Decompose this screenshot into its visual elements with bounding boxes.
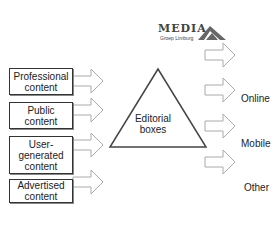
input-box-professional: Professional content — [9, 68, 73, 95]
input-box-advertised: Advertised content — [9, 179, 73, 203]
editorial-triangle — [110, 69, 206, 147]
output-other: Other — [244, 182, 269, 193]
input-box-public: Public content — [9, 102, 73, 129]
logo-icon — [198, 26, 226, 40]
editorial-boxes-label: Editorial boxes — [131, 113, 175, 135]
output-mobile: Mobile — [241, 138, 270, 149]
output-online: Online — [241, 93, 270, 104]
input-box-user-generated: User-generated content — [9, 136, 73, 174]
